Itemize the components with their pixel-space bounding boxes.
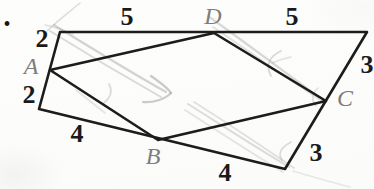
side-label-bottom-right-4: 4 [219, 160, 232, 186]
vertex-label-d: D [204, 4, 221, 28]
pencil-stroke-9 [272, 57, 291, 63]
vertex-label-b: B [146, 144, 161, 168]
worksheet-page: • 5 5 2 2 3 3 4 4 A B C D [0, 0, 374, 189]
vertex-label-a: A [24, 54, 39, 78]
vertex-label-c: C [337, 86, 353, 110]
side-label-top-left-5: 5 [121, 4, 134, 30]
pencil-stroke-6 [208, 16, 319, 97]
side-label-right-upper-3: 3 [361, 52, 374, 78]
pencil-stroke-1 [50, 31, 161, 97]
pencil-stroke-15 [293, 171, 350, 187]
side-label-left-lower-2: 2 [23, 82, 36, 108]
side-label-right-lower-3: 3 [310, 140, 323, 166]
pencil-stroke-13 [185, 110, 283, 172]
pencil-stroke-16 [104, 84, 111, 103]
side-label-bottom-left-4: 4 [71, 121, 84, 147]
side-label-left-upper-2: 2 [36, 26, 49, 52]
pencil-stroke-14 [280, 142, 291, 160]
side-label-top-right-5: 5 [286, 4, 299, 30]
